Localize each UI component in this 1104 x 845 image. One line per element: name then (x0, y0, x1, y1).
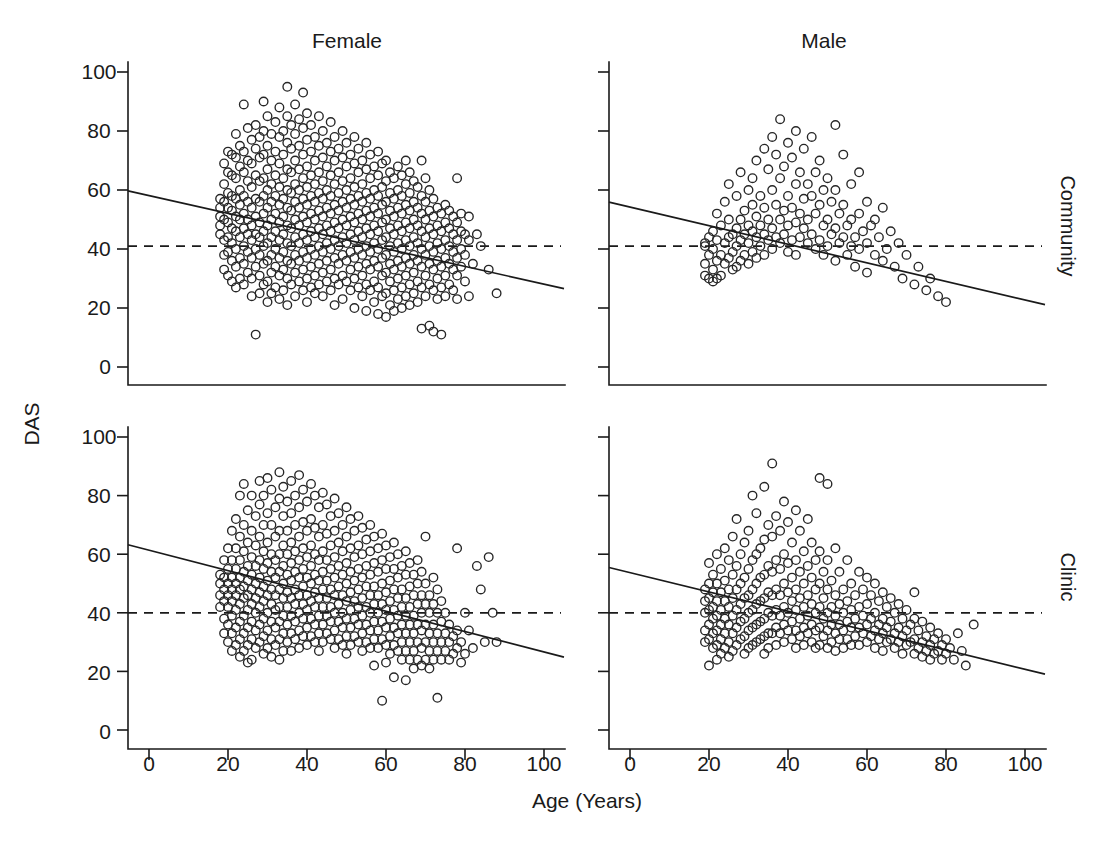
xtick-right-80: 80 (934, 752, 957, 776)
xtick-left-60: 60 (374, 752, 397, 776)
ytick-bottom-80: 80 (87, 484, 110, 508)
xtick-right-20: 20 (697, 752, 720, 776)
ytick-bottom-60: 60 (87, 543, 110, 567)
ytick-top-100: 100 (81, 60, 116, 84)
y-axis-title: DAS (20, 402, 44, 445)
row-strip-community: Community (1056, 175, 1079, 276)
x-axis-title: Age (Years) (532, 789, 642, 813)
ytick-bottom-0: 0 (99, 720, 111, 744)
column-title-female: Female (312, 29, 382, 53)
ytick-top-40: 40 (87, 237, 110, 261)
ytick-bottom-100: 100 (81, 425, 116, 449)
xtick-left-80: 80 (453, 752, 476, 776)
ytick-top-60: 60 (87, 178, 110, 202)
xtick-left-40: 40 (295, 752, 318, 776)
row-strip-clinic: Clinic (1056, 553, 1079, 602)
scatter-plot-matrix (0, 0, 1104, 845)
xtick-right-60: 60 (855, 752, 878, 776)
xtick-left-0: 0 (143, 752, 155, 776)
ytick-top-0: 0 (99, 355, 111, 379)
figure-background (0, 0, 1104, 845)
xtick-right-0: 0 (624, 752, 636, 776)
ytick-bottom-20: 20 (87, 661, 110, 685)
column-title-male: Male (801, 29, 847, 53)
xtick-right-100: 100 (1007, 752, 1042, 776)
ytick-top-20: 20 (87, 296, 110, 320)
xtick-left-20: 20 (216, 752, 239, 776)
ytick-top-80: 80 (87, 119, 110, 143)
xtick-left-100: 100 (526, 752, 561, 776)
ytick-bottom-40: 40 (87, 602, 110, 626)
xtick-right-40: 40 (776, 752, 799, 776)
